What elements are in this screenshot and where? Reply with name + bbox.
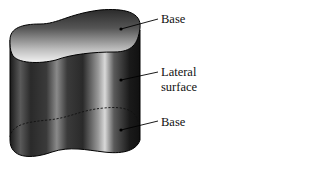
lateral-surface-label-line2: surface: [161, 80, 197, 94]
top-base-dot: [119, 27, 122, 30]
lateral-dot: [119, 78, 122, 81]
top-base-label: Base: [161, 12, 185, 26]
bottom-base-dot: [119, 128, 122, 131]
lateral-surface-label-line1: Lateral: [161, 65, 196, 79]
bottom-base-label: Base: [161, 115, 185, 129]
